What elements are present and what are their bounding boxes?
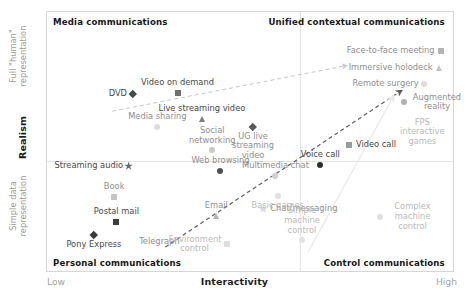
plot-area: DVDVideo on demandLive streaming videoUG… bbox=[46, 11, 454, 272]
point-label-multimedia-chat: Multimedia chat bbox=[242, 161, 309, 171]
point-label-fps-interactive-games: FPS interactive games bbox=[396, 118, 448, 147]
marker-social-networking bbox=[209, 147, 215, 153]
marker-remote-surgery bbox=[421, 81, 427, 87]
x-axis-high-label: High bbox=[436, 276, 457, 287]
marker-live-streaming-video bbox=[199, 116, 205, 122]
quadrant-label-media-communications: Media communications bbox=[53, 17, 167, 27]
marker-video-on-demand bbox=[175, 90, 181, 96]
marker-face-to-face-meeting bbox=[438, 48, 444, 54]
marker-augmented-reality bbox=[401, 99, 407, 105]
y-axis-high-line1: Full "human" bbox=[8, 29, 18, 82]
point-label-social-networking: Social networking bbox=[186, 126, 238, 145]
marker-ug-live-streaming-video bbox=[249, 123, 257, 131]
marker-basic-games bbox=[275, 193, 281, 199]
point-label-video-on-demand: Video on demand bbox=[141, 78, 214, 88]
y-axis-high-label: Full "human" representation bbox=[8, 18, 28, 94]
point-label-media-sharing: Media sharing bbox=[128, 112, 186, 122]
point-label-immersive-holodeck: Immersive holodeck bbox=[349, 63, 433, 73]
marker-email bbox=[213, 213, 219, 219]
point-label-voice-call: Voice call bbox=[301, 150, 340, 160]
point-label-simple-machine-control: Simple machine control bbox=[276, 206, 328, 235]
y-axis-low-line2: representation bbox=[18, 176, 28, 237]
point-label-face-to-face-meeting: Face-to-face meeting bbox=[347, 46, 435, 56]
marker-media-sharing bbox=[154, 124, 160, 130]
y-axis-high-line2: representation bbox=[18, 26, 28, 87]
y-axis-title: Realism bbox=[17, 115, 28, 161]
quadrant-label-control-communications: Control communications bbox=[324, 258, 445, 268]
marker-dvd bbox=[129, 90, 137, 98]
marker-environment-control bbox=[224, 241, 230, 247]
point-label-dvd: DVD bbox=[109, 89, 127, 99]
marker-voice-call bbox=[317, 162, 323, 168]
point-label-book: Book bbox=[104, 182, 125, 192]
point-label-remote-surgery: Remote surgery bbox=[352, 79, 418, 89]
y-axis-low-line1: Simple data bbox=[8, 181, 18, 231]
x-axis-title: Interactivity bbox=[0, 276, 469, 287]
point-label-complex-machine-control: Complex machine control bbox=[387, 202, 439, 231]
point-label-streaming-audio: Streaming audio bbox=[55, 161, 123, 171]
marker-book bbox=[111, 194, 117, 200]
marker-streaming-audio bbox=[124, 161, 133, 170]
chart-canvas: Full "human" representation Realism Simp… bbox=[0, 0, 469, 297]
point-label-environment-control: Environment control bbox=[169, 235, 221, 254]
marker-immersive-holodeck bbox=[436, 65, 442, 71]
marker-postal-mail bbox=[113, 219, 119, 225]
marker-web-browsing bbox=[217, 168, 223, 174]
marker-pony-express bbox=[90, 231, 98, 239]
marker-video-call bbox=[346, 142, 352, 148]
point-label-web-browsing: Web browsing bbox=[191, 156, 249, 166]
point-label-postal-mail: Postal mail bbox=[94, 207, 139, 217]
y-axis-low-label: Simple data representation bbox=[8, 168, 28, 244]
marker-multimedia-chat bbox=[272, 173, 278, 179]
marker-simple-machine-control bbox=[299, 237, 305, 243]
point-label-augmented-reality: Augmented reality bbox=[411, 93, 463, 112]
marker-complex-machine-control bbox=[377, 214, 383, 220]
quadrant-label-unified-contextual-communications: Unified contextual communications bbox=[268, 17, 444, 27]
point-label-email: Email bbox=[205, 201, 228, 211]
point-label-pony-express: Pony Express bbox=[66, 240, 121, 250]
point-label-video-call: Video call bbox=[356, 140, 396, 150]
quadrant-label-personal-communications: Personal communications bbox=[53, 258, 181, 268]
